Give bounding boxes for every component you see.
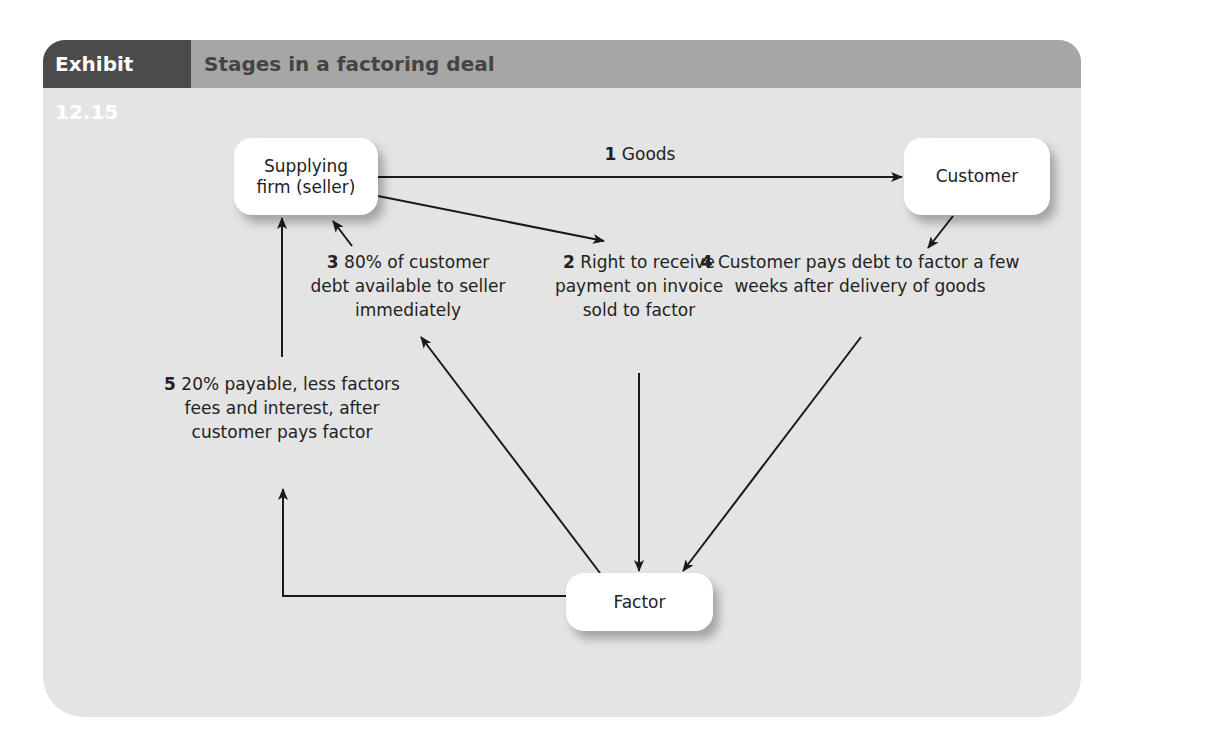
step-5-number: 5 — [164, 374, 176, 394]
step-4-label: 4 Customer pays debt to factor a few wee… — [700, 250, 1020, 298]
arrow-customer-pays — [928, 216, 953, 248]
step-4-number: 4 — [701, 252, 713, 272]
node-customer: Customer — [904, 138, 1050, 215]
node-customer-label: Customer — [936, 166, 1019, 187]
arrow-80pct-to-seller — [333, 221, 352, 246]
step-1-text: Goods — [622, 144, 676, 164]
node-factor: Factor — [566, 573, 713, 631]
step-4-text: Customer pays debt to factor a few weeks… — [718, 252, 1019, 296]
step-5-text: 20% payable, less factors fees and inter… — [181, 374, 400, 442]
step-5-label: 5 20% payable, less factors fees and int… — [162, 372, 402, 444]
step-2-text: Right to receive payment on invoice sold… — [555, 252, 723, 320]
node-seller: Supplying firm (seller) — [234, 138, 378, 215]
arrow-debt-to-factor — [683, 337, 861, 571]
step-3-text: 80% of customer debt available to seller… — [311, 252, 506, 320]
step-3-label: 3 80% of customer debt available to sell… — [308, 250, 508, 322]
step-1-number: 1 — [605, 144, 617, 164]
node-factor-label: Factor — [613, 592, 665, 613]
step-1-label: 1 Goods — [580, 142, 700, 166]
arrow-factor-to-80pct — [421, 337, 600, 573]
node-seller-label: Supplying firm (seller) — [251, 156, 361, 198]
arrow-factor-to-20pct — [283, 489, 566, 596]
arrow-right-to-receive — [378, 196, 604, 241]
step-3-number: 3 — [327, 252, 339, 272]
step-2-number: 2 — [563, 252, 575, 272]
